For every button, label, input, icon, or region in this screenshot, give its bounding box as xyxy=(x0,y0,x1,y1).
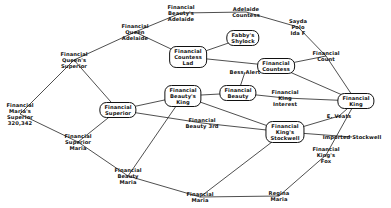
node-marias-superior: Financial Maria's Superior 320,342 xyxy=(6,102,33,126)
node-kings-fox: Financial King's Fox xyxy=(312,146,339,164)
node-fabbys-shylock: Fabby's Shylock xyxy=(226,30,259,46)
node-imported-stockwell: Imported Stockwell xyxy=(323,134,382,140)
node-beautys-king: Financial Beauty's King xyxy=(164,85,201,107)
node-queens-superior: Financial Queen's Superior xyxy=(60,51,87,69)
node-financial-beauty: Financial Beauty xyxy=(219,85,256,101)
node-queen-adelaide: Financial Queen Adelaide xyxy=(121,23,148,41)
node-financial-countess: Financial Countess xyxy=(257,58,295,74)
node-beautys-adelaide: Financial Beauty's Adelaide xyxy=(167,4,194,22)
node-king-interest: Financial King Interest xyxy=(271,89,298,107)
node-bess-alert: Bess Alert xyxy=(230,69,261,75)
node-superior-maria: Financial Superior Maria xyxy=(64,133,91,151)
node-e-veats: E. Veats xyxy=(327,113,351,119)
node-countess-lad: Financial Countess Lad xyxy=(169,46,207,68)
node-regina-maria: Regina Maria xyxy=(269,190,290,202)
node-sayda-polo: Sayda Polo Ida F xyxy=(289,18,307,36)
node-maria: Financial Maria xyxy=(186,191,213,203)
node-kings-stockwell: Financial King's Stockwell xyxy=(265,121,304,143)
node-beauty-3rd: Financial Beauty 3rd xyxy=(185,117,218,129)
node-financial-count: Financial Count xyxy=(312,50,339,62)
node-adelaide-countess: Adelaide Countess xyxy=(232,6,260,18)
node-financial-king: Financial King xyxy=(337,93,374,109)
node-beauty-maria: Financial Beauty Maria xyxy=(114,167,141,185)
pedigree-diagram: Financial Maria's Superior 320,342Financ… xyxy=(0,0,391,208)
node-superior: Financial Superior xyxy=(99,102,136,118)
